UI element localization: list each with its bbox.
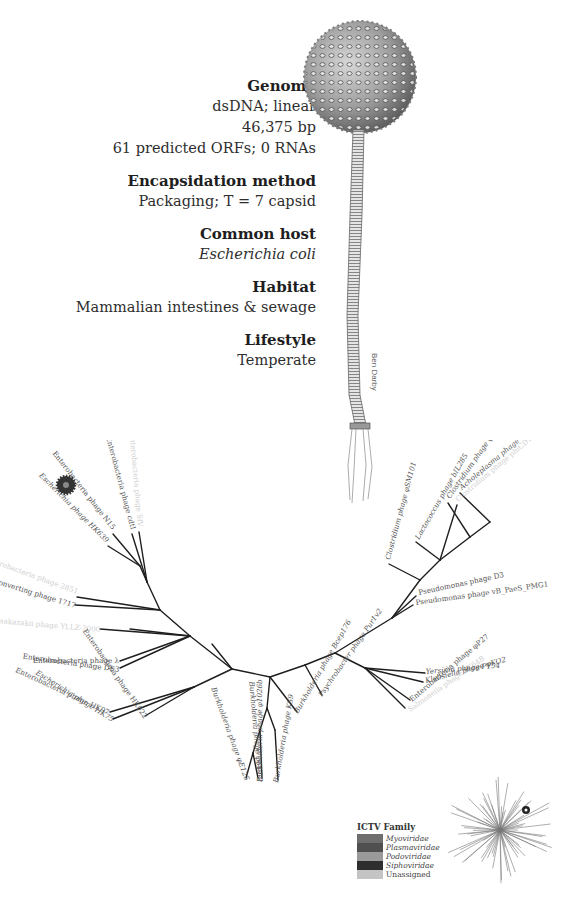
tree-branch xyxy=(448,503,470,537)
mini-tree-branch xyxy=(456,809,500,830)
legend-label: Plasmaviridae xyxy=(386,843,440,852)
tree-leaf-label: Clostridium phage φSM101 xyxy=(383,461,418,561)
mini-tree-branch xyxy=(482,806,500,830)
tree-branch xyxy=(147,582,160,610)
lifestyle-value: Temperate xyxy=(16,350,316,371)
legend-item: Myoviridae xyxy=(357,834,440,843)
tree-branch xyxy=(108,546,140,566)
phage-illustration: Ben Darby xyxy=(300,15,480,505)
tree-branch xyxy=(267,708,275,730)
artist-signature: Ben Darby xyxy=(370,353,379,391)
tree-branch xyxy=(267,677,270,708)
host-section: Common host Escherichia coli xyxy=(16,224,316,265)
mini-highlight-marker-icon xyxy=(522,806,530,814)
host-value: Escherichia coli xyxy=(16,244,316,265)
habitat-value: Mammalian intestines & sewage xyxy=(16,297,316,318)
legend-swatch xyxy=(357,834,383,843)
tree-branch xyxy=(190,636,232,669)
tree-branch xyxy=(440,505,457,560)
habitat-section: Habitat Mammalian intestines & sewage xyxy=(16,277,316,318)
genome-section: Genome dsDNA; linear 46,375 bp 61 predic… xyxy=(16,76,316,159)
tree-branch xyxy=(113,534,140,566)
tree-branch xyxy=(270,665,305,677)
tree-leaf-label: Burkholderia phage φ1026b xyxy=(255,679,264,783)
legend-label: Podoviridae xyxy=(386,852,431,861)
genome-size: 46,375 bp xyxy=(16,117,316,138)
legend-label: Unassigned xyxy=(386,870,431,879)
genome-type: dsDNA; linear xyxy=(16,96,316,117)
tree-branch xyxy=(145,687,194,716)
tree-branch xyxy=(132,534,147,582)
mini-tree-thumbnail xyxy=(440,760,560,890)
tree-branch xyxy=(194,669,232,687)
legend-swatch xyxy=(357,861,383,870)
legend-swatch xyxy=(357,870,383,879)
legend-item: Podoviridae xyxy=(357,852,440,861)
tree-leaf-label: Escherichia phage HK75 xyxy=(33,668,116,724)
encapsidation-section: Encapsidation method Packaging; T = 7 ca… xyxy=(16,171,316,212)
tree-leaf-label: Burkholderia phage φE125 xyxy=(209,685,252,782)
legend-item: Plasmaviridae xyxy=(357,843,440,852)
tree-branch xyxy=(420,560,440,580)
phage-tail xyxy=(347,130,366,425)
legend-label: Siphoviridae xyxy=(386,861,434,870)
mini-tree-branch xyxy=(468,798,500,830)
tree-branch xyxy=(232,669,270,677)
encapsidation-heading: Encapsidation method xyxy=(16,171,316,191)
tree-branch xyxy=(120,636,190,661)
genome-info-panel: Genome dsDNA; linear 46,375 bp 61 predic… xyxy=(16,76,316,383)
host-heading: Common host xyxy=(16,224,316,244)
legend-label: Myoviridae xyxy=(386,834,429,843)
highlight-marker-icon xyxy=(57,476,75,494)
encapsidation-value: Packaging; T = 7 capsid xyxy=(16,191,316,212)
genome-orfs: 61 predicted ORFs; 0 RNAs xyxy=(16,138,316,159)
legend-title: ICTV Family xyxy=(357,822,440,832)
legend-item: Unassigned xyxy=(357,870,440,879)
tree-branch xyxy=(416,542,440,560)
genome-heading: Genome xyxy=(16,76,316,96)
tree-leaf-label: Burkholderia phage KS9 xyxy=(271,693,296,784)
lifestyle-heading: Lifestyle xyxy=(16,330,316,350)
tree-branch xyxy=(392,596,416,618)
legend-item: Siphoviridae xyxy=(357,861,440,870)
tree-branch xyxy=(365,668,405,708)
lifestyle-section: Lifestyle Temperate xyxy=(16,330,316,371)
tree-branch xyxy=(160,610,190,636)
tree-branch xyxy=(120,636,190,668)
tree-branch xyxy=(440,537,470,560)
baseplate xyxy=(350,423,370,429)
habitat-heading: Habitat xyxy=(16,277,316,297)
legend-swatch xyxy=(357,843,383,852)
legend-swatch xyxy=(357,852,383,861)
tree-branch xyxy=(470,522,490,537)
tree-branch xyxy=(389,564,420,580)
ictv-family-legend: ICTV Family Myoviridae Plasmaviridae Pod… xyxy=(357,822,440,879)
mini-tree-branch xyxy=(500,802,529,830)
capsid-head xyxy=(304,21,416,133)
